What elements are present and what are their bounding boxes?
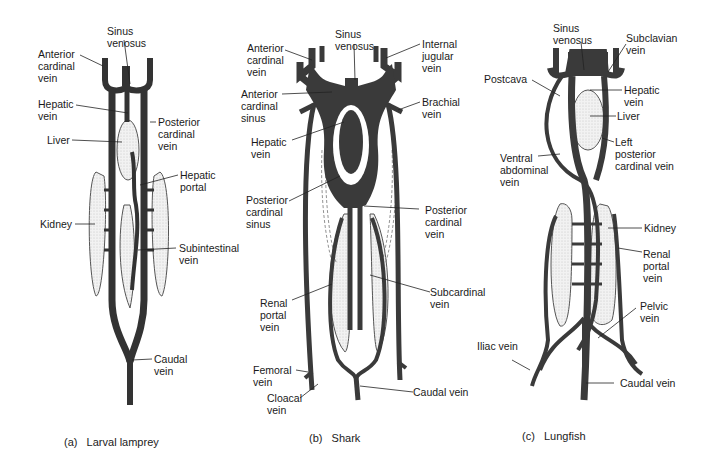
lamprey-label-subintestinal-vein: Subintestinal vein — [179, 242, 239, 266]
lungfish-label-subclavian-vein: Subclavian vein — [626, 32, 677, 56]
lamprey-label-kidney: Kidney — [40, 218, 72, 230]
lungfish-label-postcava: Postcava — [484, 73, 527, 85]
shark-label-anterior-cardinal-vein: Anterior cardinal vein — [247, 42, 284, 78]
shark-label-hepatic-vein: Hepatic vein — [251, 136, 287, 160]
lamprey-caption: (a) Larval lamprey — [64, 436, 159, 449]
lamprey-intestine — [120, 205, 134, 308]
lungfish-label-left-posterior-cardinal-vein: Left posterior cardinal vein — [615, 136, 674, 172]
venous-system-diagram — [0, 0, 714, 456]
lamprey-kidney-right — [152, 172, 168, 296]
shark-label-internal-jugular-vein: Internal jugular vein — [422, 38, 457, 74]
lungfish-diagram — [512, 42, 642, 400]
lungfish-label-renal-portal-vein: Renal portal vein — [643, 248, 670, 284]
lamprey-label-sinus-venosus: Sinus venosus — [107, 25, 146, 49]
shark-diagram — [282, 44, 430, 400]
lungfish-label-pelvic-vein: Pelvic vein — [640, 300, 668, 324]
lamprey-diagram — [72, 40, 178, 405]
shark-label-femoral-vein: Femoral vein — [253, 364, 292, 388]
shark-label-sinus-venosus: Sinus venosus — [335, 28, 374, 52]
lungfish-label-hepatic-vein: Hepatic vein — [624, 84, 660, 108]
shark-label-cloacal-vein: Cloacal vein — [267, 392, 302, 416]
shark-label-posterior-cardinal-sinus: Posterior cardinal sinus — [246, 194, 288, 230]
lungfish-label-caudal-vein: Caudal vein — [620, 377, 675, 389]
shark-label-caudal-vein: Caudal vein — [413, 386, 468, 398]
lamprey-label-posterior-cardinal-vein: Posterior cardinal vein — [158, 116, 200, 152]
shark-caption: (b) Shark — [309, 432, 360, 445]
lungfish-label-iliac-vein: Iliac vein — [477, 340, 518, 352]
lungfish-label-ventral-abdominal-vein: Ventral abdominal vein — [500, 152, 548, 188]
shark-label-posterior-cardinal-vein: Posterior cardinal vein — [425, 204, 467, 240]
lamprey-label-liver: Liver — [47, 134, 70, 146]
lamprey-kidney-left — [89, 172, 105, 296]
lamprey-label-hepatic-portal: Hepatic portal — [180, 169, 216, 193]
lamprey-label-hepatic-vein: Hepatic vein — [38, 98, 74, 122]
lungfish-label-sinus-venosus: Sinus venosus — [553, 22, 592, 46]
lungfish-caption: (c) Lungfish — [522, 430, 586, 443]
lungfish-label-kidney: Kidney — [644, 222, 676, 234]
lamprey-label-anterior-cardinal-vein: Anterior cardinal vein — [38, 48, 75, 84]
lamprey-label-caudal-vein: Caudal vein — [154, 353, 187, 377]
shark-label-renal-portal-vein: Renal portal vein — [260, 297, 287, 333]
lungfish-label-liver: Liver — [617, 110, 640, 122]
shark-label-subcardinal-vein: Subcardinal vein — [430, 286, 485, 310]
shark-label-anterior-cardinal-sinus: Anterior cardinal sinus — [241, 88, 278, 124]
shark-label-brachial-vein: Brachial vein — [422, 96, 460, 120]
